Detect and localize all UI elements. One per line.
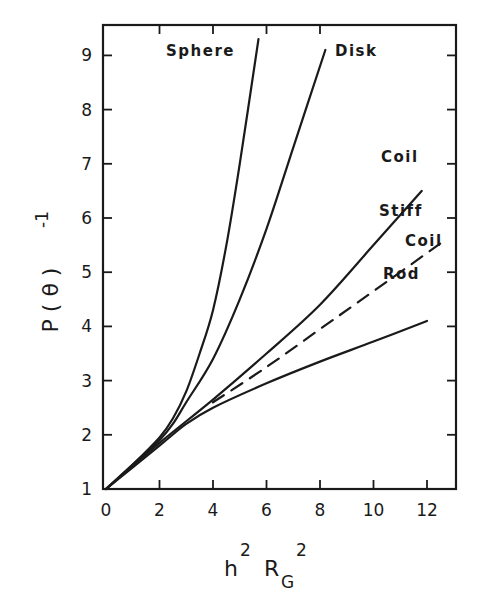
y-tick-label: 4 xyxy=(81,316,92,336)
svg-text:G: G xyxy=(281,572,294,592)
curve-sphere xyxy=(106,39,258,489)
curve-disk xyxy=(106,50,325,489)
label-stiff-coil: Coil xyxy=(405,232,443,250)
svg-text:2: 2 xyxy=(296,540,307,560)
svg-text:P ( θ ): P ( θ ) xyxy=(38,268,63,333)
plot-frame xyxy=(103,25,456,489)
x-tick-label: 2 xyxy=(154,500,165,520)
y-tick-label: 2 xyxy=(81,425,92,445)
y-tick-label: 3 xyxy=(81,371,92,391)
y-tick-label: 7 xyxy=(81,154,92,174)
x-tick-label: 6 xyxy=(261,500,272,520)
x-tick-label: 12 xyxy=(416,500,438,520)
x-tick-label: 8 xyxy=(315,500,326,520)
y-tick-label: 1 xyxy=(81,479,92,499)
curve-rod xyxy=(106,321,427,489)
label-stiff: Stiff xyxy=(379,202,423,220)
y-tick-label: 6 xyxy=(81,208,92,228)
label-disk: Disk xyxy=(335,42,378,60)
y-tick-label: 9 xyxy=(81,45,92,65)
chart: 024681012123456789 Sphere Disk Coil Stif… xyxy=(0,0,483,603)
x-tick-label: 0 xyxy=(101,500,112,520)
y-axis-title: P ( θ ) -1 xyxy=(32,211,63,332)
x-tick-label: 4 xyxy=(208,500,219,520)
svg-text:-1: -1 xyxy=(32,211,52,228)
x-axis-title: h 2 R G 2 xyxy=(224,540,307,592)
svg-text:2: 2 xyxy=(240,540,251,560)
svg-text:h: h xyxy=(224,556,238,581)
y-tick-label: 8 xyxy=(81,100,92,120)
x-tick-label: 10 xyxy=(363,500,385,520)
label-sphere: Sphere xyxy=(166,42,235,60)
label-coil: Coil xyxy=(381,148,419,166)
svg-text:R: R xyxy=(264,556,279,581)
label-rod: Rod xyxy=(383,265,420,283)
y-tick-label: 5 xyxy=(81,262,92,282)
